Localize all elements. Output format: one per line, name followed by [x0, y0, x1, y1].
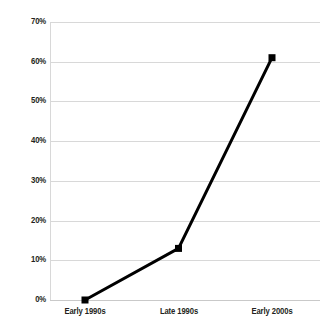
gridline-40pct [50, 141, 320, 142]
x-tick-label: Early 2000s [232, 306, 313, 316]
line-chart: 70%60%50%40%30%20%10%0% Early 1990sLate … [0, 0, 332, 334]
y-tick-label: 40% [8, 136, 46, 145]
gridline-30pct [50, 181, 320, 182]
gridline-10pct [50, 260, 320, 261]
y-tick-label: 30% [8, 176, 46, 185]
gridline-50pct [50, 101, 320, 102]
gridline-0pct [50, 300, 320, 301]
x-tick-label: Early 1990s [45, 306, 126, 316]
x-tick-label: Late 1990s [138, 306, 219, 316]
y-tick-label: 20% [8, 216, 46, 225]
y-tick-label: 60% [8, 57, 46, 66]
y-tick-label: 10% [8, 255, 46, 264]
gridline-60pct [50, 62, 320, 63]
y-tick-label: 50% [8, 96, 46, 105]
gridline-20pct [50, 221, 320, 222]
y-tick-label: 0% [8, 295, 46, 304]
gridlines-group [50, 22, 320, 300]
gridline-70pct [50, 22, 320, 23]
y-tick-label: 70% [8, 17, 46, 26]
